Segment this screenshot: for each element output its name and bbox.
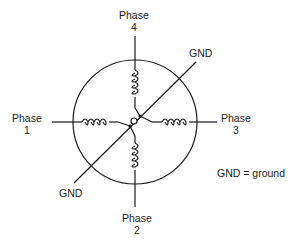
phase2-winding [130,126,138,207]
gnd-top-label: GND [189,47,212,59]
center-node [131,118,137,124]
phase3-label: Phase 3 [221,112,251,136]
phase1-winding [52,119,130,126]
legend-gnd: GND = ground [217,167,285,179]
phase2-label: Phase 2 [122,212,152,236]
stepper-motor-diagram [0,0,297,242]
phase4-label: Phase 4 [119,9,149,33]
phase1-label: Phase 1 [12,112,42,136]
gnd-bottom-label: GND [59,187,82,199]
phase4-winding [132,36,140,116]
phase3-winding [140,116,217,125]
